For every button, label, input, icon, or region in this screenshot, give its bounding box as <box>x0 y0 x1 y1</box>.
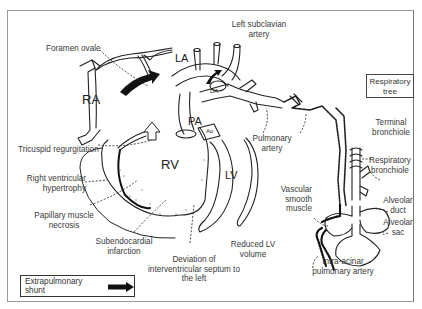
vascular-smooth-muscle-label-line3: muscle <box>268 204 312 214</box>
respiratory-tree-box: Respiratory tree <box>366 74 414 98</box>
respiratory-bronchiole-label-line2: bronchiole <box>362 166 418 176</box>
deviation-label-line2: interventricular septum to <box>146 265 242 275</box>
reduced-lv-label-line1: Reduced LV <box>224 240 282 250</box>
da-label: DA <box>210 87 218 97</box>
rv-label: RV <box>161 160 179 170</box>
rv-hypertrophy-label-line2: hypertrophy <box>20 184 86 194</box>
tricuspid-regurgitation-label: Tricuspid regurgitation <box>18 145 99 155</box>
pa-label: PA <box>188 117 202 127</box>
alveolar-duct-label-line1: Alveolar <box>378 196 418 206</box>
left-subclavian-label-line1: Left subclavian <box>226 20 292 30</box>
vascular-smooth-muscle-label-line1: Vascular <box>268 185 312 195</box>
ao-label: Ao <box>206 127 213 137</box>
intra-acinar-label-line2: pulmonary artery <box>310 267 376 277</box>
vascular-smooth-muscle-label-line2: smooth <box>268 195 312 205</box>
extrapulmonary-shunt-legend: Extrapulmonary shunt <box>20 275 135 297</box>
papillary-necrosis-label-line1: Papillary muscle <box>30 211 98 221</box>
right-ventricle-shape <box>80 128 208 238</box>
pulmonary-artery-label-line2: artery <box>248 144 296 154</box>
alveolar-sac-label-line1: Alveolar <box>378 218 418 228</box>
respiratory-tree-line1: Respiratory <box>367 77 413 87</box>
alveolar-duct-label-line2: duct <box>378 206 418 216</box>
respiratory-bronchiole-label-line1: Respiratory <box>362 156 418 166</box>
foramen-ovale-label: Foramen ovale <box>46 44 101 54</box>
shunt-legend-arrow-icon <box>108 282 134 290</box>
respiratory-tree-line2: tree <box>367 87 413 97</box>
tricuspid-arrow-icon <box>144 122 160 140</box>
terminal-bronchiole-label-line2: bronchiole <box>366 128 416 138</box>
lv-label: LV <box>225 171 238 181</box>
shunt-arrow-icon <box>120 70 160 96</box>
papillary-necrosis-label-line2: necrosis <box>30 221 98 231</box>
alveolar-sac-label-line2: sac <box>378 228 418 238</box>
extrapulmonary-shunt-label: Extrapulmonary shunt <box>25 277 104 295</box>
terminal-bronchiole-label-line1: Terminal <box>366 118 416 128</box>
left-subclavian-label-line2: artery <box>226 30 292 40</box>
subendocardial-label-line1: Subendocardial <box>88 237 160 247</box>
deviation-label-line3: the left <box>146 274 242 284</box>
ra-label: RA <box>82 95 100 105</box>
intra-acinar-label-line1: Intra-acinar <box>310 257 376 267</box>
la-label: LA <box>175 54 188 64</box>
pulmonary-artery-label-line1: Pulmonary <box>248 134 296 144</box>
reduced-lv-label-line2: volume <box>224 250 282 260</box>
rv-hypertrophy-label-line1: Right ventricular <box>20 174 86 184</box>
